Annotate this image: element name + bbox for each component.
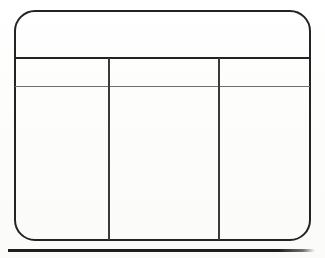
table-header-cell bbox=[15, 59, 108, 86]
scanned-form-canvas bbox=[0, 0, 325, 258]
table-cell bbox=[15, 87, 108, 240]
column-divider bbox=[108, 58, 110, 240]
table-cell bbox=[219, 87, 310, 240]
form-title-band bbox=[16, 12, 309, 58]
table-header-cell bbox=[219, 59, 310, 86]
table-row bbox=[15, 87, 310, 240]
table-header-cell bbox=[109, 59, 218, 86]
footer-separator-bar bbox=[8, 249, 315, 252]
table-header-row bbox=[15, 59, 310, 86]
column-divider bbox=[218, 58, 220, 240]
table-cell bbox=[109, 87, 218, 240]
